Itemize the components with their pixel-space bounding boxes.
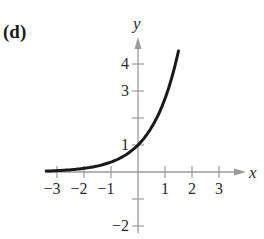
x-tick-label: −3 (43, 180, 60, 197)
exponential-graph: −3−2−1123−2134 x y (0, 0, 264, 239)
x-tick-label: −1 (97, 180, 114, 197)
y-axis-label: y (131, 14, 141, 33)
y-tick-label: 4 (121, 55, 129, 72)
x-tick-label: −2 (70, 180, 87, 197)
y-tick-label: 1 (121, 136, 129, 153)
x-axis-label: x (248, 163, 257, 182)
x-tick-label: 2 (188, 180, 196, 197)
y-tick-label: −2 (112, 217, 129, 234)
x-tick-label: 3 (215, 180, 223, 197)
x-tick-label: 1 (161, 180, 169, 197)
y-axis-arrow-icon (135, 37, 142, 49)
function-curve (46, 51, 178, 171)
x-axis-arrow-icon (234, 169, 246, 176)
y-tick-label: 3 (121, 82, 129, 99)
